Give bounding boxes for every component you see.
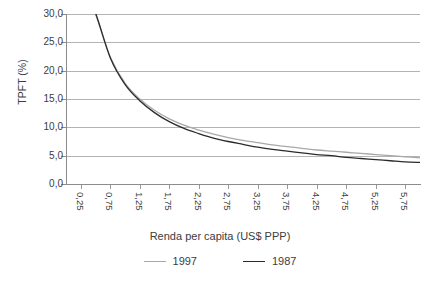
- x-axis-tick: [199, 185, 200, 189]
- legend-item-1997[interactable]: 1997: [144, 256, 197, 267]
- y-axis-line: [66, 14, 67, 185]
- x-axis-tick: [317, 185, 318, 189]
- gridline-y: [66, 42, 420, 43]
- x-axis-tick-label: 1,75: [163, 192, 173, 226]
- x-axis-tick-label: 4,25: [311, 192, 321, 226]
- y-axis-tick-label: 25,0: [3, 37, 63, 47]
- y-axis-tick-label: 10,0: [3, 122, 63, 132]
- x-axis-line: [66, 184, 421, 185]
- x-axis-tick: [376, 185, 377, 189]
- gridline-y: [66, 14, 420, 15]
- x-axis-tick: [81, 185, 82, 189]
- x-axis-tick: [169, 185, 170, 189]
- x-axis-tick-label: 0,75: [104, 192, 114, 226]
- x-axis-tick-label: 3,25: [252, 192, 262, 226]
- x-axis-tick: [346, 185, 347, 189]
- legend-line-swatch: [243, 261, 265, 262]
- x-axis-tick: [405, 185, 406, 189]
- x-axis-tick: [287, 185, 288, 189]
- gridline-y: [66, 127, 420, 128]
- series-line-1987: [81, 0, 420, 162]
- x-axis-tick-label: 5,25: [370, 192, 380, 226]
- y-axis-tick-label: 20,0: [3, 66, 63, 76]
- legend-label: 1987: [272, 256, 296, 267]
- gridline-y: [66, 99, 420, 100]
- x-axis-tick: [140, 185, 141, 189]
- x-axis-tick-label: 1,25: [134, 192, 144, 226]
- x-axis-tick: [228, 185, 229, 189]
- series-line-1997: [81, 0, 420, 158]
- y-axis-tick-label: 0,0: [3, 179, 63, 189]
- x-axis-tick: [110, 185, 111, 189]
- y-axis-title: TPFT (%): [16, 42, 28, 122]
- gridline-y: [66, 71, 420, 72]
- x-axis-tick: [258, 185, 259, 189]
- x-axis-tick-label: 4,75: [340, 192, 350, 226]
- legend-label: 1997: [173, 256, 197, 267]
- x-axis-tick-label: 2,25: [193, 192, 203, 226]
- legend-line-swatch: [144, 261, 166, 262]
- y-axis-tick-label: 5,0: [3, 151, 63, 161]
- x-axis-tick-label: 0,25: [75, 192, 85, 226]
- y-axis-tick-label: 30,0: [3, 9, 63, 19]
- y-axis-tick-label: 15,0: [3, 94, 63, 104]
- legend-item-1987[interactable]: 1987: [243, 256, 296, 267]
- x-axis-title: Renda per capita (US$ PPP): [0, 230, 440, 242]
- x-axis-tick-label: 5,75: [399, 192, 409, 226]
- x-axis-tick-label: 3,75: [281, 192, 291, 226]
- x-axis-tick-label: 2,75: [222, 192, 232, 226]
- chart-container: 0,05,010,015,020,025,030,00,250,751,251,…: [0, 0, 440, 282]
- chart-legend: 19971987: [0, 256, 440, 267]
- gridline-y: [66, 156, 420, 157]
